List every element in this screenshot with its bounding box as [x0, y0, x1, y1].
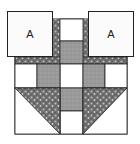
left-a-label: A	[26, 28, 34, 40]
labels-layer: A A	[0, 0, 140, 144]
right-a-label: A	[107, 28, 115, 40]
